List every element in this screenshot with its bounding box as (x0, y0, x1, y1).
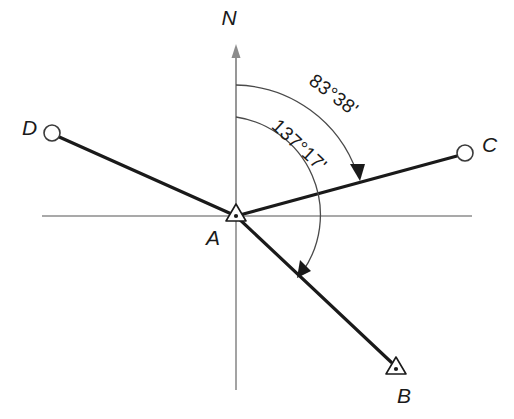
angle-arc-83-38-arrowhead (350, 164, 365, 181)
survey-diagram-canvas: N A B C D 83°38' 137°17' (0, 0, 514, 419)
survey-diagram: N A B C D 83°38' 137°17' (0, 0, 514, 419)
label-station-c: C (482, 133, 498, 156)
label-station-b: B (397, 384, 411, 407)
north-arrow-icon (232, 44, 241, 58)
ray-a-to-c (236, 156, 457, 216)
angle-arc-137-17-arrowhead (297, 260, 311, 278)
station-marker-b-dot (394, 367, 398, 371)
station-marker-a-dot (234, 214, 238, 218)
label-north: N (221, 6, 237, 29)
label-station-a: A (204, 226, 220, 249)
station-marker-d (44, 125, 60, 141)
ray-a-to-d (57, 136, 236, 216)
ray-a-to-b (236, 216, 391, 362)
angle-label-137-17: 137°17' (268, 115, 331, 176)
station-marker-c (457, 145, 473, 161)
label-station-d: D (22, 116, 37, 139)
